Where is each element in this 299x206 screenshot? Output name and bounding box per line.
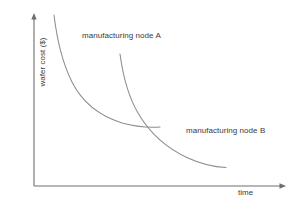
- x-axis-label: time: [238, 188, 253, 198]
- annotation-manufacturing-node-b: manufacturing node B: [186, 126, 265, 136]
- chart-figure: manufacturing node A manufacturing node …: [0, 0, 299, 206]
- y-axis-arrowhead: [31, 13, 36, 20]
- x-axis-arrowhead: [280, 183, 287, 188]
- curve-manufacturing-node-b: [120, 54, 226, 168]
- annotation-manufacturing-node-a: manufacturing node A: [82, 31, 161, 41]
- y-axis-label: wafer cost ($): [38, 22, 48, 102]
